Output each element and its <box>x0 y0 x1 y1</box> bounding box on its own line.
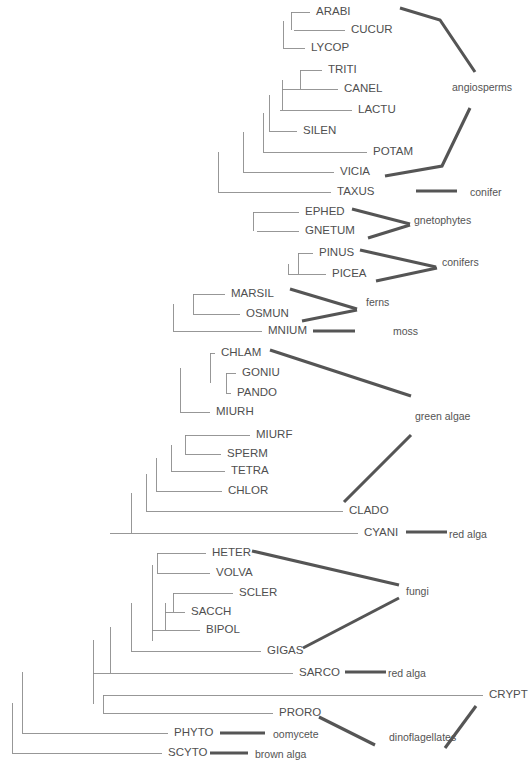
clade-bracket-angiosperms-upper <box>400 8 475 72</box>
taxon-label-lactu: LACTU <box>358 103 396 115</box>
taxon-label-proro: PRORO <box>279 706 321 718</box>
clade-label-red-alga-cyani: red alga <box>449 528 487 540</box>
taxon-label-phyto: PHYTO <box>174 726 213 738</box>
clade-label-dinoflagellates: dinoflagellates <box>389 731 456 743</box>
clade-bracket-fungi-upper <box>252 551 399 585</box>
taxon-label-gnetum: GNETUM <box>305 224 355 236</box>
taxon-label-cyani: CYANI <box>364 526 398 538</box>
taxon-label-triti: TRITI <box>328 63 357 75</box>
taxon-label-chlam: CHLAM <box>221 346 261 358</box>
clade-bracket-green-algae-upper <box>270 350 411 396</box>
taxon-labels: ARABICUCURLYCOPTRITICANELLACTUSILENPOTAM… <box>168 5 528 758</box>
clade-bracket-ferns-upper <box>290 289 357 309</box>
taxon-label-miurh: MIURH <box>216 405 254 417</box>
taxon-label-pando: PANDO <box>237 386 277 398</box>
taxon-label-crypt: CRYPT <box>489 688 528 700</box>
taxon-label-potam: POTAM <box>373 145 413 157</box>
taxon-label-lycop: LYCOP <box>311 41 349 53</box>
taxon-label-gigas: GIGAS <box>267 644 304 656</box>
taxon-label-heter: HETER <box>212 546 251 558</box>
clade-bracket-ferns-lower <box>302 310 357 321</box>
clade-label-moss: moss <box>393 325 418 337</box>
taxon-label-volva: VOLVA <box>216 566 253 578</box>
taxon-label-canel: CANEL <box>344 82 383 94</box>
clade-label-gnetophytes: gnetophytes <box>414 214 471 226</box>
clade-bracket-green-algae-lower <box>344 435 411 502</box>
taxon-label-osmun: OSMUN <box>246 307 289 319</box>
clade-label-oomycete: oomycete <box>273 728 319 740</box>
taxon-label-chlor: CHLOR <box>228 484 268 496</box>
taxon-label-miurf: MIURF <box>256 428 292 440</box>
clade-bracket-conifers-upper <box>360 250 436 267</box>
taxon-label-scyto: SCYTO <box>168 746 207 758</box>
taxon-label-bipol: BIPOL <box>206 623 240 635</box>
taxon-label-cucur: CUCUR <box>351 23 393 35</box>
taxon-label-clado: CLADO <box>349 504 389 516</box>
taxon-label-picea: PICEA <box>332 267 367 279</box>
clade-bracket-gnetophytes-upper <box>352 209 410 224</box>
clade-bracket-angiosperms-lower <box>385 108 470 176</box>
taxon-label-sperm: SPERM <box>227 447 268 459</box>
clade-bracket-conifers-lower <box>376 268 437 281</box>
clade-label-brown-alga: brown alga <box>255 748 307 760</box>
tree-branches <box>12 12 483 753</box>
clade-label-ferns: ferns <box>366 296 389 308</box>
taxon-label-pinus: PINUS <box>319 246 354 258</box>
taxon-label-sarco: SARCO <box>299 666 340 678</box>
clade-brackets <box>210 8 476 753</box>
taxon-label-marsil: MARSIL <box>231 287 274 299</box>
taxon-label-taxus: TAXUS <box>337 185 375 197</box>
taxon-label-silen: SILEN <box>303 124 336 136</box>
clade-label-conifers: conifers <box>442 256 479 268</box>
clade-label-conifer: conifer <box>470 186 502 198</box>
taxon-label-scler: SCLER <box>239 586 277 598</box>
taxon-label-mnium: MNIUM <box>268 324 307 336</box>
tree-canvas: ARABICUCURLYCOPTRITICANELLACTUSILENPOTAM… <box>0 0 531 774</box>
clade-label-fungi: fungi <box>406 585 429 597</box>
taxon-label-goniu: GONIU <box>242 366 280 378</box>
phylogenetic-tree-figure: ARABICUCURLYCOPTRITICANELLACTUSILENPOTAM… <box>0 0 531 774</box>
clade-names: angiospermsconifergnetophytesconifersfer… <box>255 81 512 760</box>
taxon-label-sacch: SACCH <box>191 605 231 617</box>
clade-bracket-dinoflagellates-up <box>319 717 375 745</box>
clade-bracket-gnetophytes-lower <box>368 225 410 238</box>
clade-label-red-alga-sarco: red alga <box>388 667 426 679</box>
taxon-label-ephed: EPHED <box>305 205 345 217</box>
taxon-label-vicia: VICIA <box>340 165 370 177</box>
clade-label-angiosperms: angiosperms <box>452 81 512 93</box>
clade-bracket-fungi-lower <box>303 598 399 648</box>
taxon-label-tetra: TETRA <box>231 464 269 476</box>
taxon-label-arabi: ARABI <box>316 5 351 17</box>
clade-label-green-algae: green algae <box>415 410 471 422</box>
